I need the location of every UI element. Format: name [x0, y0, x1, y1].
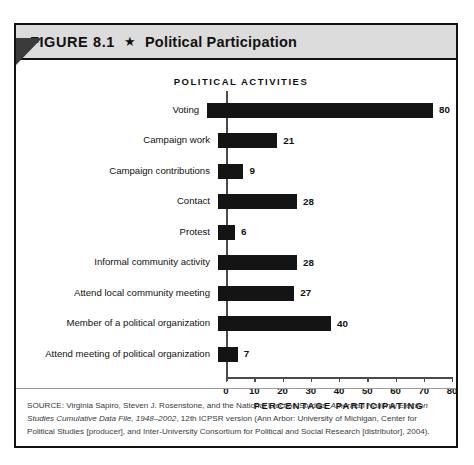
x-axis-tick-label: 60 — [390, 385, 401, 396]
bar-row: Voting80 — [26, 95, 450, 126]
bar-value-label: 28 — [303, 258, 314, 268]
source-line1-text: SOURCE: Virginia Sapiro, Steven J. Rosen… — [27, 401, 331, 410]
figure-title-group: FIGURE 8.1 ★ Political Participation — [16, 34, 297, 50]
source-separator — [16, 388, 456, 389]
x-axis-tick-label: 50 — [362, 385, 373, 396]
x-axis-tick — [396, 377, 397, 382]
source-note: SOURCE: Virginia Sapiro, Steven J. Rosen… — [27, 399, 447, 438]
bar-zone: 28 — [218, 187, 450, 218]
bar-category-label: Contact — [26, 196, 218, 207]
x-axis-tick-label: 20 — [277, 385, 288, 396]
x-axis-tick-label: 40 — [334, 385, 345, 396]
bar-category-label: Attend meeting of political organization — [26, 349, 218, 360]
star-icon: ★ — [124, 35, 136, 48]
x-axis-tick-label: 10 — [249, 385, 260, 396]
bar-category-label: Protest — [26, 227, 218, 238]
bar-zone: 40 — [218, 309, 450, 340]
bar-row: Attend local community meeting27 — [26, 278, 450, 309]
bar-value-label: 6 — [241, 227, 246, 237]
bar-value-label: 28 — [303, 197, 314, 207]
source-line3-text: Studies [producer], and Inter-University… — [57, 427, 429, 436]
figure-title: Political Participation — [145, 34, 297, 50]
bar — [207, 103, 433, 118]
bar — [218, 316, 331, 331]
bar — [218, 255, 297, 270]
x-axis-tick — [339, 377, 340, 382]
figure-header-band: FIGURE 8.1 ★ Political Participation — [16, 25, 456, 60]
bar-row: Protest6 — [26, 217, 450, 248]
bar — [218, 286, 294, 301]
x-axis-tick-label: 80 — [447, 385, 458, 396]
x-axis-tick-label: 0 — [223, 385, 228, 396]
bar — [218, 194, 297, 209]
x-axis-tick-label: 70 — [418, 385, 429, 396]
bar-zone: 28 — [218, 248, 450, 279]
bar-zone: 7 — [218, 339, 450, 370]
bar-category-label: Campaign contributions — [26, 166, 218, 177]
bar-row: Contact28 — [26, 187, 450, 218]
bar-row: Attend meeting of political organization… — [26, 339, 450, 370]
figure-container: FIGURE 8.1 ★ Political Participation POL… — [14, 23, 458, 448]
bar-value-label: 80 — [439, 105, 450, 115]
bar-category-label: Voting — [26, 105, 207, 116]
bar-category-label: Informal community activity — [26, 257, 218, 268]
bar-category-label: Member of a political organization — [26, 318, 218, 329]
bar-value-label: 9 — [249, 166, 254, 176]
bar-zone: 9 — [218, 156, 450, 187]
x-axis-tick — [311, 377, 312, 382]
bar — [218, 225, 235, 240]
bar-row: Campaign contributions9 — [26, 156, 450, 187]
bar — [218, 164, 243, 179]
bar — [218, 347, 238, 362]
bar-value-label: 7 — [244, 349, 249, 359]
figure-number-label: FIGURE 8.1 — [30, 34, 115, 50]
x-axis-tick — [283, 377, 284, 382]
bar-zone: 6 — [218, 217, 450, 248]
bar — [218, 133, 277, 148]
x-axis-tick — [254, 377, 255, 382]
bar-category-label: Attend local community meeting — [26, 288, 218, 299]
x-axis-tick — [367, 377, 368, 382]
source-line1-italic: American National Election — [331, 401, 428, 410]
x-axis-tick — [424, 377, 425, 382]
chart-heading: POLITICAL ACTIVITIES — [16, 76, 456, 87]
source-line2-italic: Studies Cumulative Data File, 1948–2002 — [27, 414, 176, 423]
x-axis-tick — [452, 377, 453, 382]
bar-row: Informal community activity28 — [26, 248, 450, 279]
bar-category-label: Campaign work — [26, 135, 218, 146]
bar-value-label: 27 — [300, 288, 311, 298]
x-axis-tick — [226, 377, 227, 382]
x-axis-tick-label: 30 — [305, 385, 316, 396]
bar-zone: 21 — [218, 126, 450, 157]
bar-chart-plot: Voting80Campaign work21Campaign contribu… — [26, 95, 450, 377]
bar-row: Campaign work21 — [26, 126, 450, 157]
bar-value-label: 40 — [337, 319, 348, 329]
chart-area: POLITICAL ACTIVITIES Voting80Campaign wo… — [16, 58, 456, 446]
bar-value-label: 21 — [283, 136, 294, 146]
bar-zone: 27 — [218, 278, 450, 309]
bar-row: Member of a political organization40 — [26, 309, 450, 340]
bar-zone: 80 — [207, 95, 450, 126]
